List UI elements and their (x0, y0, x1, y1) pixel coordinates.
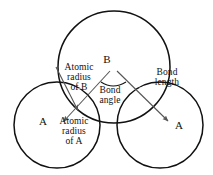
atomic-radius-of-a-label: Atomic radius of A (49, 116, 99, 146)
molecular-geometry-figure: B A A Atomic radius of B Atomic radius o… (0, 0, 213, 175)
atom-a-right-label: A (172, 120, 186, 132)
bond-angle-label: Bond angle (87, 85, 133, 105)
atom-a-left-label: A (36, 116, 50, 128)
bond-length-label: Bond length (145, 67, 189, 87)
